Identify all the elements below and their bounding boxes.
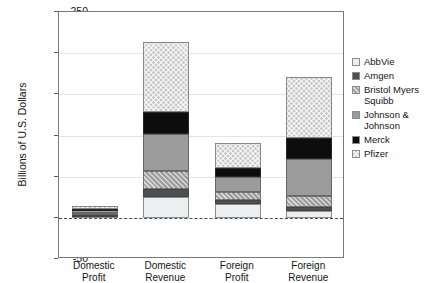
bar-segment-abbvie[interactable]: [215, 204, 261, 218]
legend-item-abbvie[interactable]: AbbVie: [352, 56, 436, 67]
bar-segment-abbvie[interactable]: [286, 211, 332, 218]
legend-label: Pfizer: [364, 148, 388, 159]
bar-segment-pfizer[interactable]: [143, 42, 189, 111]
bar-segment-pfizer[interactable]: [215, 143, 261, 168]
legend-label: Bristol Myers Squibb: [364, 84, 419, 106]
legend-swatch-merck-icon: [352, 136, 360, 144]
legend-swatch-jnj-icon: [352, 111, 360, 119]
bar-segment-pfizer[interactable]: [72, 206, 118, 208]
bar-foreign-profit[interactable]: [215, 12, 261, 259]
legend-swatch-pfizer-icon: [352, 150, 360, 158]
bar-segment-abbvie[interactable]: [143, 197, 189, 218]
bar-segment-pfizer[interactable]: [286, 77, 332, 138]
legend-item-jnj[interactable]: Johnson & Johnson: [352, 109, 436, 131]
bar-domestic-revenue[interactable]: [143, 12, 189, 259]
bar-segment-bms[interactable]: [72, 213, 118, 215]
bar-segment-amgen[interactable]: [215, 200, 261, 204]
bar-segment-jnj[interactable]: [286, 159, 332, 196]
legend-item-pfizer[interactable]: Pfizer: [352, 148, 436, 159]
bar-segment-merck[interactable]: [215, 168, 261, 178]
bar-segment-jnj[interactable]: [72, 210, 118, 212]
x-tick-label-line: Revenue: [265, 272, 351, 283]
bar-segment-merck[interactable]: [72, 209, 118, 211]
legend-label: AbbVie: [364, 56, 394, 67]
bar-segment-jnj[interactable]: [215, 177, 261, 192]
legend: AbbVieAmgenBristol Myers SquibbJohnson &…: [352, 56, 436, 162]
y-axis-title: Billions of U.S. Dollars: [16, 11, 28, 258]
x-tick-label-line: Foreign: [265, 260, 351, 272]
legend-swatch-abbvie-icon: [352, 58, 360, 66]
bar-segment-merck[interactable]: [143, 112, 189, 134]
bar-segment-merck[interactable]: [286, 138, 332, 159]
x-tick-label: ForeignRevenue: [265, 260, 351, 283]
bar-segment-bms[interactable]: [143, 171, 189, 189]
bar-segment-jnj[interactable]: [143, 134, 189, 171]
bar-segment-amgen[interactable]: [143, 189, 189, 197]
legend-item-merck[interactable]: Merck: [352, 134, 436, 145]
legend-swatch-bms-icon: [352, 86, 360, 94]
bar-segment-bms[interactable]: [215, 192, 261, 199]
bar-foreign-revenue[interactable]: [286, 12, 332, 259]
legend-label: Merck: [364, 134, 390, 145]
bar-segment-bms[interactable]: [286, 196, 332, 208]
bar-domestic-profit[interactable]: [72, 12, 118, 259]
legend-item-bms[interactable]: Bristol Myers Squibb: [352, 84, 436, 106]
legend-swatch-amgen-icon: [352, 72, 360, 80]
bar-segment-amgen[interactable]: [286, 207, 332, 211]
legend-label: Amgen: [364, 70, 394, 81]
legend-label: Johnson & Johnson: [364, 109, 409, 131]
legend-item-amgen[interactable]: Amgen: [352, 70, 436, 81]
plot-area: [58, 11, 344, 258]
y-tick-mark: [54, 258, 58, 259]
